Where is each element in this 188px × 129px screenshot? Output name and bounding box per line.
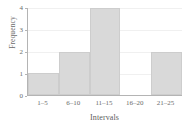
bar-11-15[interactable] <box>90 8 121 95</box>
y-tick-label-2: 2 <box>12 49 23 56</box>
bar-21-25[interactable] <box>151 52 182 96</box>
x-tick-label-11-15: 11–15 <box>95 99 112 107</box>
y-tick-mark-1 <box>25 74 27 75</box>
plot-area <box>27 8 182 96</box>
y-tick-mark-2 <box>25 52 27 53</box>
bar-1-5[interactable] <box>28 73 59 95</box>
x-tick-label-16-20: 16–20 <box>126 99 144 107</box>
bar-6-10[interactable] <box>59 52 90 96</box>
histogram-chart: Frequency 0 1 2 3 4 1–5 6–10 11– <box>0 0 188 129</box>
x-axis-title: Intervals <box>27 113 182 122</box>
y-tick-label-3: 3 <box>12 27 23 34</box>
y-tick-label-1: 1 <box>12 71 23 78</box>
y-tick-mark-0 <box>25 96 27 97</box>
x-axis-line <box>27 95 182 96</box>
bar-group <box>28 8 182 95</box>
y-tick-mark-3 <box>25 30 27 31</box>
y-axis-tick-labels: 0 1 2 3 4 <box>12 8 23 96</box>
x-tick-label-21-25: 21–25 <box>157 99 175 107</box>
x-axis-tick-labels: 1–5 6–10 11–15 16–20 21–25 <box>27 99 182 110</box>
x-tick-label-6-10: 6–10 <box>66 99 80 107</box>
y-tick-label-4: 4 <box>12 5 23 12</box>
y-tick-label-0: 0 <box>12 93 23 100</box>
y-tick-mark-4 <box>25 8 27 9</box>
x-tick-label-1-5: 1–5 <box>37 99 48 107</box>
